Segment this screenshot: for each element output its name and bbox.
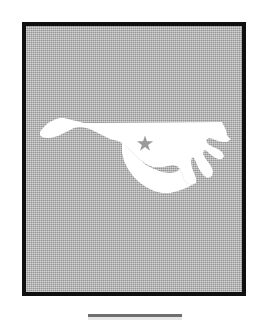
figure-root	[0, 0, 267, 320]
state-outline-group	[40, 118, 231, 193]
map-panel	[22, 22, 246, 296]
state-map-svg	[26, 26, 242, 292]
